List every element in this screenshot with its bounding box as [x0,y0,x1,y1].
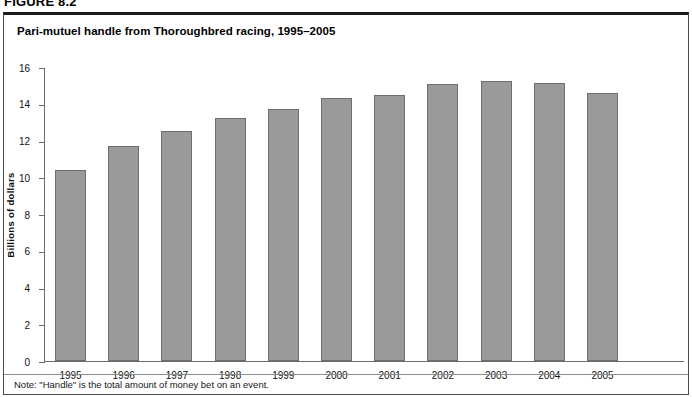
bar: 1999 [268,109,299,361]
bar: 2005 [587,93,618,361]
y-axis-tick: 0 [39,362,45,363]
figure-number: FIGURE 8.2 [4,0,77,9]
x-axis-tick-label: 2000 [325,371,347,381]
y-axis-tick-label: 10 [19,174,30,184]
y-axis-tick-label: 0 [24,358,30,368]
bar-series: 1995199619971998199920002001200220032004… [44,68,684,362]
note-divider [4,374,688,375]
figure-note: Note: "Handle" is the total amount of mo… [14,379,269,390]
x-axis-tick-label: 2005 [591,371,613,381]
bar: 2002 [427,84,458,361]
bar: 1998 [215,118,246,361]
bar: 2001 [374,95,405,361]
y-axis-tick-label: 8 [24,211,30,221]
bar: 1997 [161,131,192,361]
y-axis-tick-label: 6 [24,247,30,257]
bar: 1995 [55,170,86,361]
y-axis-tick-label: 2 [24,321,30,331]
x-axis-tick-label: 2001 [379,371,401,381]
y-axis-tick-label: 14 [19,100,30,110]
y-axis-tick-label: 4 [24,284,30,294]
y-axis-tick-label: 16 [19,64,30,74]
y-axis-title: Billions of dollars [5,172,16,257]
y-axis-tick-label: 12 [19,137,30,147]
bar: 2003 [481,81,512,361]
x-axis-tick-label: 2004 [538,371,560,381]
x-axis-tick-label: 2003 [485,371,507,381]
chart-title: Pari-mutuel handle from Thoroughbred rac… [17,25,335,37]
figure-panel: Pari-mutuel handle from Thoroughbred rac… [3,12,689,395]
x-axis-tick-label: 1999 [272,371,294,381]
plot-area: Billions of dollars 0246810121416 199519… [44,68,684,362]
x-axis-tick-label: 2002 [432,371,454,381]
bar: 2000 [321,98,352,361]
bar: 1996 [108,146,139,361]
bar: 2004 [534,83,565,361]
